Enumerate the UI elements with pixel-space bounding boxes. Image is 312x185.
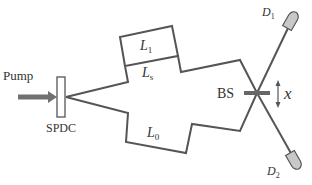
bs-label: BS [217, 86, 234, 101]
d1-label: D1 [261, 5, 275, 21]
pump-label: Pump [3, 68, 33, 83]
l0-label: L0 [146, 125, 160, 142]
lower-path-l0 [66, 93, 257, 153]
detector-d2-icon [286, 151, 304, 172]
x-label: x [283, 84, 292, 103]
l1-label: L1 [139, 38, 152, 55]
pump-arrow [18, 91, 57, 103]
detector-d1-icon [283, 10, 301, 31]
spdc-label: SPDC [46, 121, 76, 135]
diagram-canvas: Pump SPDC L1 Ls L0 BS x D1 D2 [0, 0, 312, 185]
ls-label: Ls [141, 65, 154, 82]
d2-label: D2 [266, 164, 280, 180]
displacement-arrow-icon [276, 80, 281, 108]
spdc-crystal [57, 77, 65, 117]
arm-d1 [257, 26, 289, 93]
